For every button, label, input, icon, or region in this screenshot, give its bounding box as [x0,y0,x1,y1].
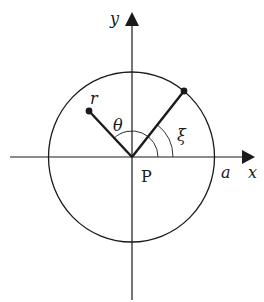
y-axis-arrow-icon [125,12,139,26]
x-axis-arrow-icon [242,150,255,164]
boundary-point-dot [181,88,188,95]
theta-label: θ [113,116,123,135]
xi-angle-arc [157,125,173,157]
segment-to-boundary [132,91,184,157]
radius-label-a: a [221,163,231,182]
point-r-dot [86,108,93,115]
origin-label-P: P [141,167,152,186]
segment-to-r [89,111,132,157]
polar-circle-diagram: y x P a r θ ξ [0,0,264,302]
point-label-r: r [90,89,99,108]
xi-label: ξ [177,126,187,145]
y-axis-label: y [109,9,120,28]
x-axis-label: x [248,163,257,182]
